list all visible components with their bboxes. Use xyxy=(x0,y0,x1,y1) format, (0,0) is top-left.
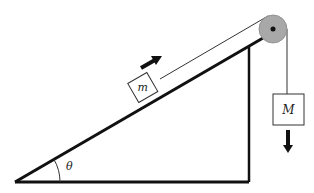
arrow-down xyxy=(283,130,293,153)
incline-surface xyxy=(15,38,263,182)
block-m: m xyxy=(128,72,158,102)
angle-arc xyxy=(54,160,60,183)
block-M: M xyxy=(273,94,304,125)
arrow-up-incline xyxy=(141,56,162,68)
pulley-axle xyxy=(271,27,276,32)
string-incline xyxy=(160,16,268,79)
incline-diagram: θ m M xyxy=(0,0,314,193)
block-M-label: M xyxy=(281,103,295,117)
pulley xyxy=(259,15,287,43)
incline-triangle xyxy=(15,38,263,182)
arrow-down-head xyxy=(283,145,293,153)
arrow-shaft xyxy=(141,60,155,68)
angle-label: θ xyxy=(66,160,73,173)
block-m-label: m xyxy=(138,81,148,94)
